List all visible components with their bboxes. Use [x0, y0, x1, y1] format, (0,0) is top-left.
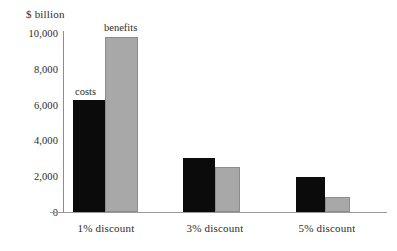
bar-benefits-3-percent	[215, 167, 240, 212]
series-annotation-costs: costs	[75, 86, 96, 97]
plot-area	[63, 33, 387, 212]
category-label-5-percent: 5% discount	[299, 222, 356, 234]
y-axis-tick-labels: 0 2,000 4,000 6,000 8,000 10,000	[0, 0, 58, 251]
bar-chart-figure: $ billion 0 2,000 4,000 6,000 8,000 10,0…	[0, 0, 397, 251]
bar-costs-1-percent	[73, 100, 105, 212]
bar-costs-3-percent	[183, 158, 215, 212]
y-tick-label-8000: 8,000	[34, 63, 58, 74]
bar-costs-5-percent	[296, 177, 325, 212]
x-axis-line	[50, 212, 387, 213]
series-annotation-benefits: benefits	[104, 22, 137, 33]
bar-group	[296, 33, 371, 212]
bar-benefits-5-percent	[325, 197, 350, 212]
y-tick-label-4000: 4,000	[34, 135, 58, 146]
bar-benefits-1-percent	[105, 37, 138, 212]
category-label-3-percent: 3% discount	[187, 222, 244, 234]
category-label-1-percent: 1% discount	[78, 222, 135, 234]
y-tick-label-6000: 6,000	[34, 99, 58, 110]
y-tick-label-10000: 10,000	[29, 28, 58, 39]
bar-group	[73, 33, 148, 212]
y-tick-label-2000: 2,000	[34, 171, 58, 182]
bar-group	[183, 33, 258, 212]
